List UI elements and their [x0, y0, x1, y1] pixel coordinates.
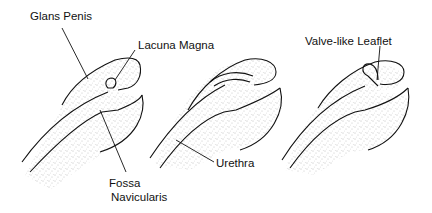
panel-2 [150, 59, 283, 170]
label-urethra: Urethra [216, 157, 254, 170]
label-fossa-line1: Fossa [109, 177, 140, 190]
anatomy-diagram [0, 0, 432, 213]
panel-1 [22, 28, 143, 190]
panel-3 [282, 46, 410, 175]
glans-penis-leader [62, 28, 88, 79]
label-glans-penis: Glans Penis [30, 10, 92, 23]
label-valve-leaflet: Valve-like Leaflet [305, 35, 392, 48]
label-fossa-line2: Navicularis [111, 191, 167, 204]
label-lacuna-magna: Lacuna Magna [138, 39, 214, 52]
